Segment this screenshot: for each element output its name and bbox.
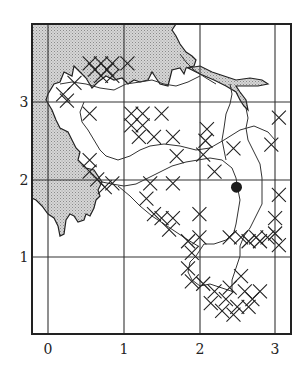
x-tick-3: 3 bbox=[271, 341, 280, 357]
cross-icon bbox=[192, 207, 206, 221]
cross-icon bbox=[223, 230, 237, 244]
cross-icon bbox=[245, 292, 259, 306]
cross-icon bbox=[143, 176, 157, 190]
cross-icon bbox=[181, 234, 195, 248]
cross-icon bbox=[83, 153, 97, 167]
cross-icon bbox=[198, 134, 212, 148]
x-tick-0: 0 bbox=[44, 341, 53, 357]
y-tick-2: 2 bbox=[20, 172, 29, 188]
cross-icon bbox=[60, 94, 74, 108]
cross-icon bbox=[208, 284, 222, 298]
x-tick-2: 2 bbox=[196, 341, 205, 357]
cross-icon bbox=[230, 300, 244, 314]
cross-icon bbox=[226, 141, 240, 155]
y-tick-1: 1 bbox=[20, 249, 29, 265]
cross-icon bbox=[242, 234, 256, 248]
cross-icon bbox=[215, 304, 229, 318]
cross-icon bbox=[219, 292, 233, 306]
cross-icon bbox=[261, 230, 275, 244]
cross-icon bbox=[272, 111, 286, 125]
cross-icon bbox=[192, 230, 206, 244]
cross-icon bbox=[139, 192, 153, 206]
cross-icon bbox=[264, 138, 278, 152]
cross-icon bbox=[185, 246, 199, 260]
cross-icon bbox=[196, 277, 210, 291]
y-tick-3: 3 bbox=[20, 94, 29, 110]
cross-icon bbox=[253, 234, 267, 248]
cross-icon bbox=[272, 238, 286, 252]
cross-icon bbox=[204, 296, 218, 310]
x-axis-labels: 0 1 2 3 bbox=[44, 341, 280, 357]
cross-icon bbox=[226, 308, 240, 322]
distribution-map: 0 1 2 3 3 2 1 bbox=[0, 0, 308, 373]
site-marker bbox=[231, 182, 242, 193]
y-axis-labels: 3 2 1 bbox=[20, 94, 29, 265]
cross-icon bbox=[155, 107, 169, 121]
x-tick-1: 1 bbox=[120, 341, 129, 357]
cross-icon bbox=[272, 188, 286, 202]
cross-icon bbox=[242, 300, 256, 314]
cross-icon bbox=[170, 149, 184, 163]
cross-icon bbox=[234, 269, 248, 283]
cross-icon bbox=[162, 223, 176, 237]
cross-icon bbox=[83, 107, 97, 121]
cross-icon bbox=[147, 130, 161, 144]
cross-icon bbox=[166, 130, 180, 144]
cross-icon bbox=[124, 118, 138, 132]
shaded-sea-region bbox=[32, 24, 196, 236]
cross-icon bbox=[166, 211, 180, 225]
cross-icon bbox=[166, 176, 180, 190]
cross-icon bbox=[132, 130, 146, 144]
cross-icon bbox=[208, 165, 222, 179]
